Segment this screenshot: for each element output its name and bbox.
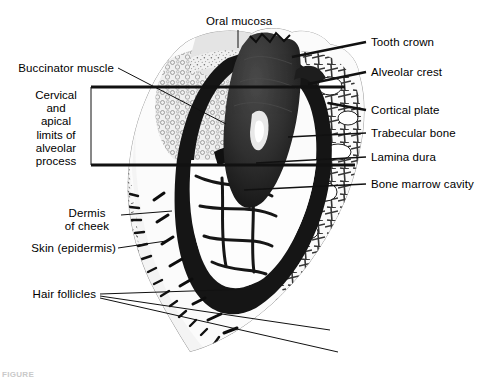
label-dermis-line2: of cheek [56,220,118,233]
label-alveolar-crest: Alveolar crest [371,66,442,79]
label-buccinator-muscle: Buccinator muscle [4,62,114,75]
label-dermis-line1: Dermis [56,207,118,220]
label-alveolar-limits-line5: alveolar [24,142,88,155]
label-cortical-plate: Cortical plate [371,104,440,117]
figure-caption: FIGURE [2,370,34,379]
label-lamina-dura: Lamina dura [371,151,436,164]
label-alveolar-limits-line4: limits of [24,129,88,142]
label-alveolar-limits: Cervical and apical limits of alveolar p… [24,89,88,168]
anatomical-figure: Oral mucosa Tooth crown Alveolar crest C… [0,0,479,382]
label-alveolar-limits-line2: and [24,102,88,115]
label-oral-mucosa: Oral mucosa [206,15,272,28]
label-trabecular-bone: Trabecular bone [371,127,456,140]
label-bone-marrow-cavity: Bone marrow cavity [371,178,474,191]
histology-micrograph [0,0,479,382]
label-alveolar-limits-line3: apical [24,115,88,128]
label-hair-follicles: Hair follicles [10,288,96,301]
label-alveolar-limits-line1: Cervical [24,89,88,102]
label-alveolar-limits-line6: process [24,155,88,168]
label-skin-epidermis: Skin (epidermis) [2,242,116,255]
label-tooth-crown: Tooth crown [371,36,434,49]
